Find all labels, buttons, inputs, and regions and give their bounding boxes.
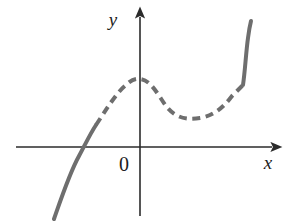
y-axis-label: y bbox=[107, 9, 118, 30]
origin-label: 0 bbox=[119, 153, 129, 175]
cubic-curve-figure: y x 0 bbox=[0, 0, 288, 221]
x-axis-label: x bbox=[263, 152, 273, 173]
figure-container: y x 0 bbox=[0, 0, 288, 221]
figure-background bbox=[0, 0, 288, 221]
